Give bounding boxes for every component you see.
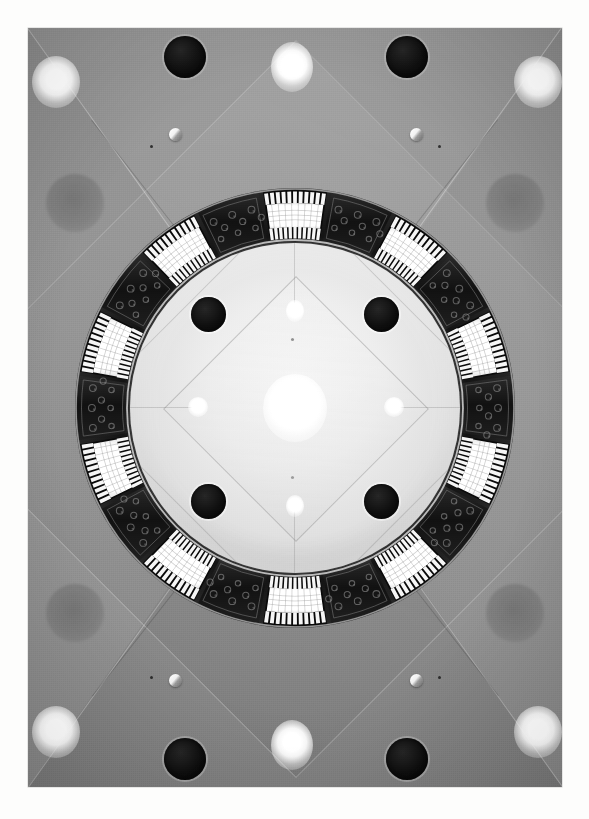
ornament-dot — [158, 285, 160, 287]
lamp-tooth-inner — [293, 227, 296, 239]
micro-fixture-top-left — [150, 145, 153, 148]
ornament-dot — [448, 543, 450, 545]
sprinkler-head-bottom-left — [169, 674, 182, 687]
dome-spotlight-right — [384, 397, 404, 417]
ornament-dot — [370, 577, 372, 579]
ornament-dot — [335, 588, 337, 590]
ornament-dot — [104, 381, 106, 383]
lamp-tooth-outer — [287, 612, 291, 624]
ornament-dot — [135, 515, 137, 517]
ornament-dot — [467, 317, 469, 319]
dome-spotlight-top — [286, 300, 304, 322]
ornament-dot — [226, 227, 228, 229]
ornament-dot — [498, 388, 500, 390]
ornament-dot — [158, 530, 160, 532]
ornament-dot — [377, 594, 379, 596]
ornament-dot — [112, 390, 114, 392]
ring-segment-1 — [263, 190, 327, 242]
ornament-dot — [471, 305, 473, 307]
ornament-dot — [455, 501, 457, 503]
corner-spotlight-top-left — [32, 56, 80, 108]
ornament-dot — [146, 530, 148, 532]
corner-spotlight-bottom-left — [32, 706, 80, 758]
dome-spotlight-center — [263, 374, 327, 442]
micro-fixture-top-right — [438, 145, 441, 148]
edge-spotlight-top — [271, 42, 313, 92]
ornament-dot — [339, 209, 341, 211]
lamp-tooth-inner — [293, 577, 296, 589]
lamp-tooth-outer — [304, 612, 308, 624]
outer-vent-bottom-left — [164, 738, 206, 780]
ring-segment-6 — [461, 375, 513, 439]
ornament-field — [77, 375, 129, 439]
ornament-dot — [121, 510, 123, 512]
ornament-dot — [211, 582, 213, 584]
sprinkler-head-top-right — [410, 128, 423, 141]
ornament-dot — [460, 288, 462, 290]
ornament-dot — [102, 400, 104, 402]
ornament-dot — [239, 583, 241, 585]
outer-vent-bottom-right — [386, 738, 428, 780]
dome-vent-lower-left — [191, 484, 226, 519]
ornament-dot — [434, 530, 436, 532]
ornament-dot — [222, 239, 224, 241]
lamp-tooth-outer — [287, 191, 291, 203]
lamp-tooth-outer — [281, 612, 285, 624]
corner-spotlight-bottom-right — [514, 706, 562, 758]
micro-fixture-bottom-left — [150, 676, 153, 679]
ornament-dot — [144, 543, 146, 545]
ornament-dot — [339, 606, 341, 608]
ornament-dot — [94, 428, 96, 430]
ornament-dot — [499, 408, 501, 410]
page-root — [0, 0, 589, 819]
ornament-dot — [214, 594, 216, 596]
lamp-tooth-outer — [299, 191, 303, 203]
ornament-dot — [252, 606, 254, 608]
ornament-dot — [233, 601, 235, 603]
ornament-dot — [434, 285, 436, 287]
ornament-dot — [137, 315, 139, 317]
lamp-tooth-inner — [289, 577, 292, 589]
ornament-dot — [330, 599, 332, 601]
ornament-dot — [460, 527, 462, 529]
lamp-tooth-outer — [293, 191, 297, 203]
ornament-dot — [370, 239, 372, 241]
ornament-dot — [479, 426, 481, 428]
ornament-dot — [480, 408, 482, 410]
ornament-dot — [125, 499, 127, 501]
ornament-dot — [445, 299, 447, 301]
lamp-tooth-outer — [304, 191, 308, 203]
dome-spotlight-left — [188, 397, 208, 417]
ornament-dot — [471, 510, 473, 512]
central-dome — [130, 243, 460, 573]
ornament-dot — [233, 215, 235, 217]
ornament-dot — [214, 222, 216, 224]
lamp-tooth-outer — [293, 612, 297, 624]
ornament-dot — [445, 516, 447, 518]
ornament-dot — [93, 408, 95, 410]
ring-segment-11 — [263, 574, 327, 626]
ornament-dot — [335, 228, 337, 230]
dome-vent-upper-left — [191, 297, 226, 332]
ornament-dot — [457, 300, 459, 302]
dome-spotlight-bottom — [286, 495, 304, 517]
ornament-dot — [348, 594, 350, 596]
ornament-dot — [247, 595, 249, 597]
ornament-dot — [147, 516, 149, 518]
lamp-tooth-outer — [299, 612, 303, 624]
ornament-dot — [489, 397, 491, 399]
ornament-dot — [94, 388, 96, 390]
ornament-dot — [137, 501, 139, 503]
ornament-dot — [229, 589, 231, 591]
ring-segment-16 — [77, 375, 129, 439]
ornament-dot — [353, 583, 355, 585]
ornament-dot — [435, 542, 437, 544]
ornament-dot — [359, 601, 361, 603]
ornament-dot — [353, 232, 355, 234]
ornament-dot — [446, 285, 448, 287]
ornament-dot — [366, 588, 368, 590]
ornament-dot — [252, 209, 254, 211]
micro-fixture-bottom-right — [438, 676, 441, 679]
lamp-tooth-inner — [289, 227, 292, 239]
ornament-dot — [455, 315, 457, 317]
